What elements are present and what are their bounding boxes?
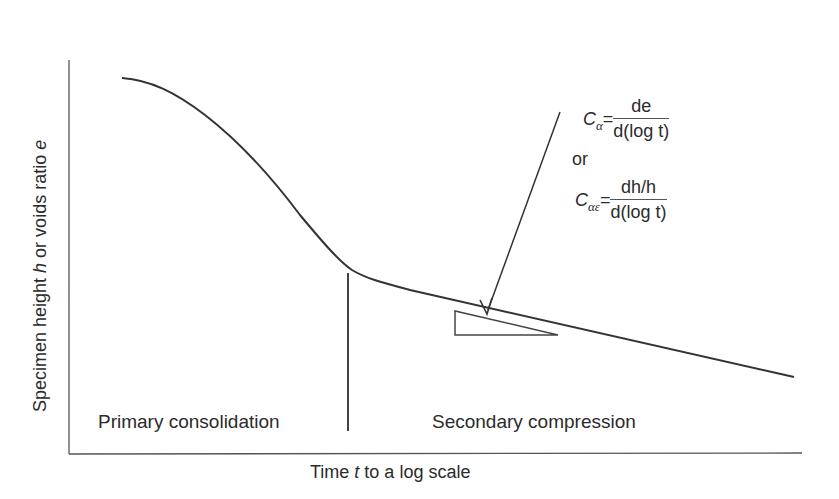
equals: =	[603, 109, 614, 130]
x-label-post: to a log scale	[359, 462, 470, 482]
consolidation-curve	[122, 78, 794, 377]
secondary-compression-label: Secondary compression	[432, 411, 636, 433]
consolidation-diagram: Primary consolidation Secondary compress…	[0, 0, 839, 499]
denominator: d(log t)	[613, 119, 669, 142]
c-alpha-formula: Cα=ded(log t)	[583, 96, 669, 142]
c-symbol: C	[583, 109, 596, 129]
alpha-epsilon-subscript: αε	[588, 199, 600, 214]
c-alpha-epsilon-formula: Cαε=dh/hd(log t)	[575, 177, 667, 223]
x-label-pre: Time	[310, 462, 354, 482]
y-label-mid: or voids ratio	[30, 150, 50, 263]
x-axis	[69, 453, 802, 454]
alpha-subscript: α	[596, 118, 603, 133]
y-label-pre: Specimen height	[30, 273, 50, 412]
denominator: d(log t)	[610, 200, 666, 223]
numerator: dh/h	[610, 177, 666, 200]
y-label-var-h: h	[30, 263, 50, 273]
or-label: or	[572, 149, 588, 170]
x-axis-label: Time t to a log scale	[310, 462, 470, 483]
pointer-arrow-shaft	[488, 112, 560, 310]
primary-consolidation-label: Primary consolidation	[98, 411, 280, 433]
fraction: ded(log t)	[613, 96, 669, 142]
fraction: dh/hd(log t)	[610, 177, 666, 223]
equals: =	[600, 190, 611, 211]
numerator: de	[613, 96, 669, 119]
c-symbol: C	[575, 190, 588, 210]
slope-triangle	[455, 311, 558, 335]
y-axis-label: Specimen height h or voids ratio e	[30, 140, 51, 412]
y-label-var-e: e	[30, 140, 50, 150]
